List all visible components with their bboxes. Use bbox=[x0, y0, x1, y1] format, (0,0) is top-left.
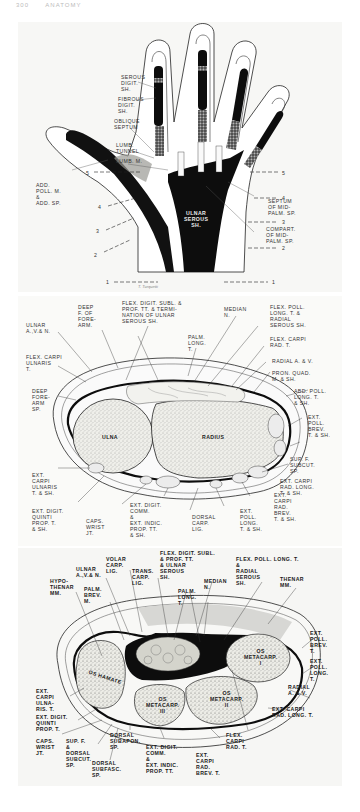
hand-illustration bbox=[18, 22, 342, 292]
page-number: 300 bbox=[16, 2, 29, 8]
label-ulnar-avn: ULNAR A.,V.& N. bbox=[76, 566, 101, 578]
label-ulna: ULNA bbox=[102, 434, 118, 440]
label-radius: RADIUS bbox=[202, 434, 224, 440]
page-header: 300 ANATOMY bbox=[16, 2, 95, 8]
label-os-metacarp-1: OS METACARP. I bbox=[244, 648, 277, 666]
label-palm-long: PALM. LONG. T. bbox=[188, 334, 206, 352]
label-ext-carpi-rad-brev: EXT. CARPI RAD. BREV. T. & SH. bbox=[274, 492, 296, 522]
label-ulnar-avn: ULNAR A.,V.& N. bbox=[26, 322, 50, 334]
label-dorsal-subapon: DORSAL SUBAPON. SP. bbox=[110, 732, 141, 750]
label-caps-wrist: CAPS. WRIST JT. bbox=[36, 738, 55, 756]
label-add-poll-m: ADD. POLL. M. & ADD. SP. bbox=[36, 182, 61, 206]
figure-forearm-cross-section: ULNAR A.,V.& N. DEEP F. OF FORE- ARM. FL… bbox=[18, 296, 342, 546]
label-ext-carpi-rad-brev: EXT. CARPI RAD. BREV. T. bbox=[196, 752, 220, 776]
label-caps-wrist: CAPS. WRIST JT. bbox=[86, 518, 105, 536]
section-marker-right-5: 5 bbox=[282, 170, 285, 176]
section-marker-left-3: 3 bbox=[96, 228, 99, 234]
label-serous-digit-sh: SEROUS DIGIT. SH. bbox=[121, 74, 145, 92]
label-trans-carp-lig: TRANS. CARP. LIG. bbox=[132, 568, 154, 586]
section-marker-right-3: 3 bbox=[282, 219, 285, 225]
running-title: ANATOMY bbox=[45, 2, 81, 8]
label-deep-forearm-sp: DEEP FORE- ARM SP. bbox=[32, 388, 50, 412]
label-ulnar-serous-sh: ULNAR SEROUS SH. bbox=[184, 210, 208, 228]
section-marker-right-2: 2 bbox=[282, 245, 285, 251]
label-radial-av: RADIAL A. & V. bbox=[288, 684, 310, 696]
figure-carpal-cross-section: VOLAR CARP. LIG. ULNAR A.,V.& N. TRANS. … bbox=[18, 548, 342, 786]
label-palm-long: PALM. LONG. T. bbox=[178, 588, 196, 606]
section-marker-right-1: 1 bbox=[272, 279, 275, 285]
label-flex-carpi-rad: FLEX. CARPI RAD. T. bbox=[270, 336, 306, 348]
label-abd-poll-long: ABD. POLL. LONG. T. & SH. bbox=[294, 388, 326, 406]
label-dorsal-carp-lig: DORSAL CARP. LIG. bbox=[192, 514, 216, 532]
label-flex-carpi-rad: FLEX. CARPI RAD. T. bbox=[226, 732, 247, 750]
label-ext-carpi-ulnaris: EXT. CARPI ULNARIS T. & SH. bbox=[32, 472, 57, 496]
label-ext-poll-brev: EXT. POLL. BREV. T. bbox=[310, 630, 327, 654]
label-ext-digit-comm: EXT. DIGIT. COMM. & EXT. INDIC. PROP. TT… bbox=[146, 744, 178, 774]
label-median-n: MEDIAN N. bbox=[204, 578, 227, 590]
label-ext-poll-long: EXT. POLL. LONG. T. bbox=[310, 658, 328, 682]
artist-signature: T. Turquetti bbox=[138, 284, 158, 289]
label-flex-poll-long: FLEX. POLL. LONG. T. & RADIAL SEROUS SH. bbox=[270, 304, 306, 328]
label-sup-f-dorsal-subcut: SUP. F. & DORSAL SUBCUT. SP. bbox=[66, 738, 91, 768]
label-ext-digit-quinti: EXT. DIGIT. QUINTI PROP. T. bbox=[36, 714, 68, 732]
label-deep-f-forearm: DEEP F. OF FORE- ARM. bbox=[78, 304, 96, 328]
label-ext-digit-quinti: EXT. DIGIT. QUINTI PROP. T. & SH. bbox=[32, 508, 64, 532]
label-os-metacarp-3: OS METACARP. III bbox=[146, 696, 179, 714]
label-oblique-septum: OBLIQUE SEPTUM bbox=[114, 118, 140, 130]
label-flex-digit-subl: FLEX. DIGIT. SUBL. & PROF. TT. & ULNAR S… bbox=[160, 550, 215, 580]
label-sup-f-subcut: SUP. F. SUBCUT. SP. bbox=[290, 456, 315, 474]
label-ext-carpi-ulnaris: EXT. CARPI ULNA- RIS. T. bbox=[36, 688, 54, 712]
label-hypothenar-mm: HYPO- THENAR MM. bbox=[50, 578, 74, 596]
label-fibrous-digit-sh: FIBROUS DIGIT. SH. bbox=[118, 96, 144, 114]
label-median-n: MEDIAN N. bbox=[224, 306, 247, 318]
label-os-metacarp-2: OS METACARP. II bbox=[210, 690, 243, 708]
label-palm-brev-m: PALM. BREV. M. bbox=[84, 586, 102, 604]
label-volar-carp-lig: VOLAR CARP. LIG. bbox=[106, 556, 126, 574]
label-dorsal-subfasc: DORSAL SUBFASC. SP. bbox=[92, 760, 121, 778]
label-lumb-tunnel: LUMB. TUNNEL bbox=[116, 142, 139, 154]
section-marker-left-1: 1 bbox=[106, 279, 109, 285]
label-thenar-mm: THENAR MM. bbox=[280, 576, 304, 588]
label-flex-carpi-ulnaris: FLEX. CARPI ULNARIS T. bbox=[26, 354, 62, 372]
label-pron-quad: PRON. QUAD. M. & SH. bbox=[272, 370, 311, 382]
label-ext-digit-comm: EXT. DIGIT. COMM. & EXT. INDIC. PROP. TT… bbox=[130, 502, 162, 538]
label-ext-poll-brev: EXT. POLL. BREV. T. & SH. bbox=[308, 414, 330, 438]
label-flex-digit-subl: FLEX. DIGIT. SUBL. & PROF. TT. & TERMI- … bbox=[122, 300, 182, 324]
label-compart-mid-palm: COMPART. OF MID- PALM. SP. bbox=[266, 226, 296, 244]
section-marker-left-2: 2 bbox=[94, 252, 97, 258]
label-ext-carpi-rad-long: EXT. CARPI RAD. LONG. T. bbox=[272, 706, 313, 718]
label-ext-poll-long: EXT. POLL. LONG. T. & SH. bbox=[240, 508, 262, 532]
section-marker-left-5: 5 bbox=[86, 170, 89, 176]
label-lumb-m: LUMB. M. bbox=[116, 158, 142, 164]
section-marker-right-4: 4 bbox=[282, 195, 285, 201]
label-radial-av: RADIAL A. & V. bbox=[272, 358, 313, 364]
section-marker-left-4: 4 bbox=[98, 204, 101, 210]
figure-hand-palmar-view: SEROUS DIGIT. SH. FIBROUS DIGIT. SH. OBL… bbox=[18, 22, 342, 292]
